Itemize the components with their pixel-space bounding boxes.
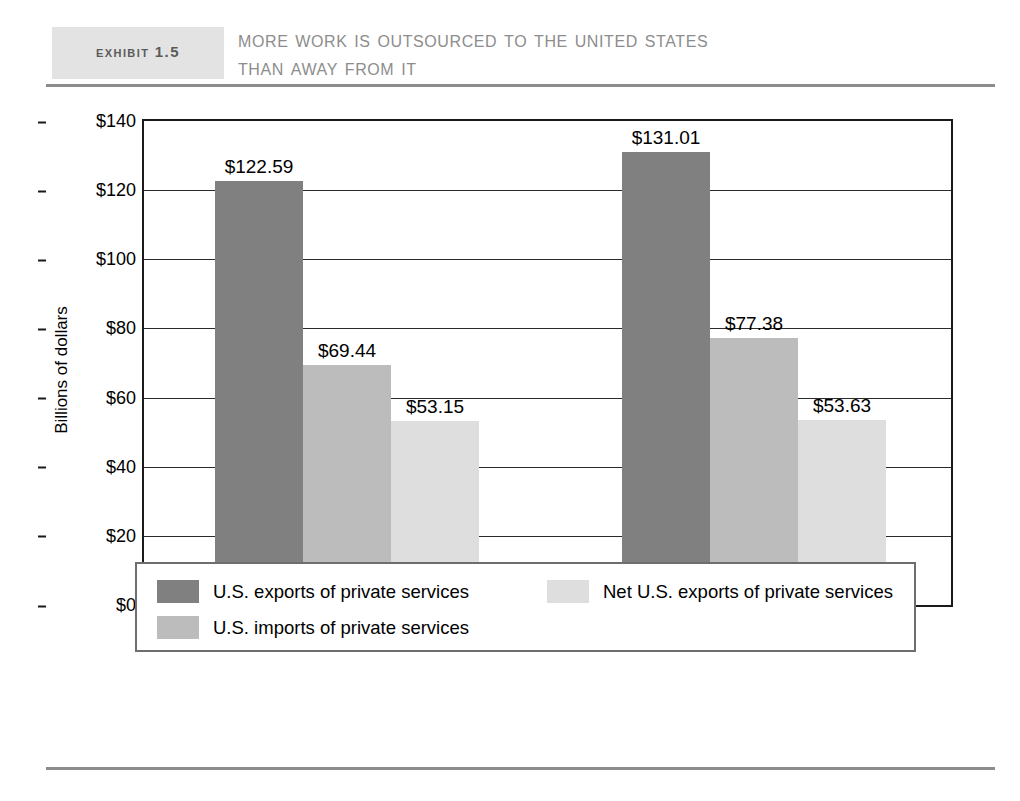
exhibit-title-line-1: More Work Is Outsourced to the United St… [238, 26, 978, 54]
legend-item: U.S. exports of private services [157, 580, 469, 603]
legend-item-label: U.S. exports of private services [213, 581, 469, 603]
bar-value-label: $131.01 [632, 127, 701, 149]
y-axis-tick-label: $120 [46, 180, 136, 201]
exhibit-header: Exhibit 1.5 More Work Is Outsourced to t… [0, 0, 1020, 90]
y-axis-tick-label: $40 [46, 456, 136, 477]
y-axis-tick-label: $100 [46, 249, 136, 270]
y-axis-tickmark [38, 467, 46, 469]
exhibit-number-label: Exhibit 1.5 [52, 43, 224, 60]
y-axis-tickmark [38, 536, 46, 538]
legend-color-swatch [547, 580, 589, 603]
header-divider-rule [46, 84, 995, 87]
legend-item-label: Net U.S. exports of private services [603, 581, 893, 603]
y-axis-tickmark [38, 398, 46, 400]
y-axis-tick-label: $0 [46, 595, 136, 616]
y-axis-tickmark [38, 190, 46, 192]
footer-divider-rule [46, 767, 995, 770]
bar-chart-figure: Billions of dollars $0$20$40$60$80$100$1… [0, 90, 1020, 765]
y-axis-tickmark [38, 121, 46, 123]
exhibit-title-line-2: Than Away from It [238, 54, 978, 82]
y-axis-tickmark [38, 328, 46, 330]
exhibit-number-badge: Exhibit 1.5 [52, 27, 224, 79]
legend-item: U.S. imports of private services [157, 616, 469, 639]
y-axis-tick-label: $60 [46, 387, 136, 408]
legend-item: Net U.S. exports of private services [547, 580, 893, 603]
y-axis-tick-label: $80 [46, 318, 136, 339]
y-axis-tickmark [38, 605, 46, 607]
y-axis-tickmark [38, 259, 46, 261]
y-axis-tick-label: $140 [46, 111, 136, 132]
bar: $131.01 [622, 152, 710, 605]
bar: $122.59 [215, 181, 303, 605]
chart-legend: U.S. exports of private servicesNet U.S.… [135, 562, 916, 652]
bar-value-label: $53.63 [813, 395, 871, 417]
legend-color-swatch [157, 616, 199, 639]
bar-value-label: $53.15 [406, 396, 464, 418]
legend-color-swatch [157, 580, 199, 603]
legend-item-label: U.S. imports of private services [213, 617, 469, 639]
bar-value-label: $77.38 [725, 313, 783, 335]
plot-area: $122.59$69.44$53.15$131.01$77.38$53.63 [142, 119, 953, 607]
y-axis-tick-labels: $0$20$40$60$80$100$120$140 [42, 119, 136, 607]
bar-value-label: $69.44 [318, 340, 376, 362]
exhibit-title: More Work Is Outsourced to the United St… [238, 26, 978, 82]
y-axis-tick-label: $20 [46, 525, 136, 546]
bar-value-label: $122.59 [225, 156, 294, 178]
